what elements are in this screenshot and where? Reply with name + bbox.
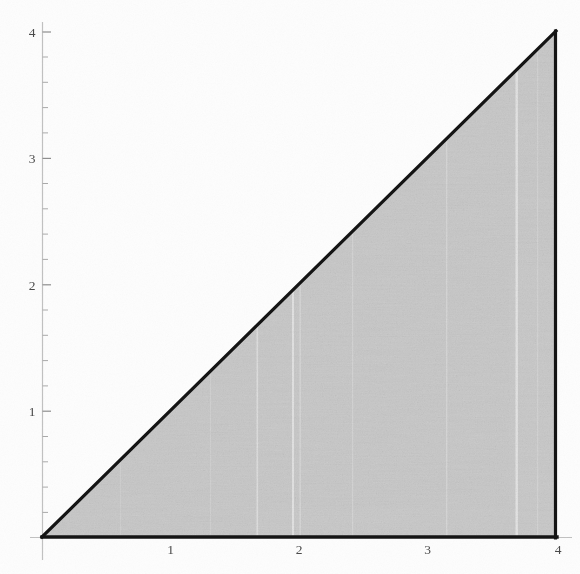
y-tick-label-3: 3 — [29, 151, 36, 166]
y-tick-label-4: 4 — [29, 25, 36, 40]
x-tick-label-2: 2 — [296, 542, 303, 557]
x-axis-tick-labels: 1 2 3 4 — [167, 542, 562, 557]
region-plot-figure: 1 2 3 4 1 2 3 4 — [0, 0, 580, 574]
region-streak-grain — [0, 0, 580, 574]
y-tick-label-1: 1 — [29, 404, 36, 419]
x-tick-label-4: 4 — [555, 542, 562, 557]
y-tick-label-2: 2 — [29, 278, 36, 293]
y-axis-major-ticks — [43, 32, 52, 411]
x-tick-label-3: 3 — [424, 542, 431, 557]
filled-region-group — [0, 0, 580, 574]
x-tick-label-1: 1 — [167, 542, 174, 557]
y-axis-tick-labels: 1 2 3 4 — [29, 25, 36, 419]
plot-canvas: 1 2 3 4 1 2 3 4 — [0, 0, 580, 574]
